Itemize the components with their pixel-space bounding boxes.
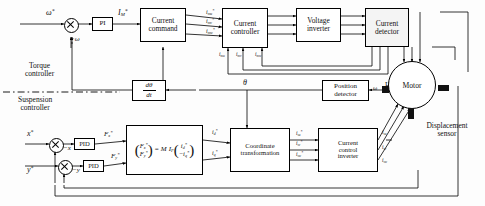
omega-feedback-label: −ω — [70, 36, 80, 43]
displacement-sensor-probe-icon — [408, 108, 414, 119]
theta-signal-label: θ — [243, 79, 247, 87]
y-feedback-label: −y — [72, 167, 80, 174]
current-control-inverter-block[interactable]: Current control inverter — [318, 128, 378, 172]
current-command-block[interactable]: Current command — [140, 8, 186, 42]
speed-summing-junction[interactable] — [64, 18, 79, 33]
coordinate-transformation-block[interactable]: Coordinate transformation — [230, 128, 290, 172]
derivative-block[interactable]: dθ dt — [132, 80, 166, 101]
iq-reference-label: iq* — [212, 150, 218, 158]
displacement-sensor-line2: sensor — [414, 130, 480, 138]
torque-current-fb-w-label: imw — [255, 52, 261, 58]
torque-controller-region-label: Torque controller — [25, 62, 54, 77]
torque-current-ref-w-label: imw* — [206, 28, 215, 36]
torque-controller-label-line2: controller — [25, 70, 54, 78]
current-command-line2: command — [148, 25, 177, 33]
pid-y-block[interactable]: PID — [83, 160, 104, 172]
id-reference-label: id* — [212, 129, 218, 137]
suspension-current-ref-u-label: isu* — [296, 131, 302, 137]
displacement-sensor-label: Displacement sensor — [414, 122, 480, 137]
pi-controller-block[interactable]: PI — [92, 17, 113, 31]
force-y-ref-label: Fy* — [111, 153, 120, 160]
torque-current-command-label: IM* — [118, 9, 128, 18]
x-feedback-label: −x — [63, 145, 71, 152]
suspension-current-fb-w-label: isw — [382, 158, 387, 164]
x-reference-label: x* — [27, 130, 33, 138]
current-controller-line2: controller — [231, 28, 260, 36]
right-paren-close: ) — [189, 144, 194, 156]
matrix-gain-m: M — [161, 146, 167, 153]
force-x-ref-label: Fx* — [104, 131, 113, 138]
coordinate-transformation-line2: transformation — [241, 150, 280, 157]
torque-current-ref-u-label: imu* — [206, 9, 214, 17]
suspension-current-ref-w-label: isw* — [296, 152, 303, 158]
force-current-matrix-block[interactable]: ( Fx* Fy* ) = M IF ( id* −iq* ) — [126, 125, 203, 175]
current-controller-block[interactable]: Current controller — [222, 8, 268, 48]
derivative-denominator: dt — [146, 92, 151, 100]
position-detector-block[interactable]: Position detector — [322, 80, 369, 101]
matrix-equation: ( Fx* Fy* ) = M IF ( id* −iq* ) — [135, 142, 195, 158]
suspension-controller-region-label: Suspension controller — [18, 96, 52, 111]
torque-current-fb-v-label: imv — [236, 52, 242, 58]
block-diagram-canvas: ω* −ω PI IM* Current command imu* imv* i… — [0, 0, 485, 206]
matrix-rhs-top: id* — [181, 142, 187, 150]
pid-x-block[interactable]: PID — [74, 138, 95, 150]
derivative-numerator: dθ — [146, 82, 153, 90]
suspension-current-fb-v-label: isv — [382, 145, 386, 151]
matrix-lhs-bottom: Fy* — [140, 150, 148, 158]
left-paren-close: ) — [148, 144, 153, 156]
x-summing-junction[interactable] — [49, 138, 64, 153]
matrix-rhs-bottom: −iq* — [179, 150, 190, 158]
voltage-inverter-block[interactable]: Voltage inverter — [296, 8, 341, 42]
current-detector-block[interactable]: Current detector — [365, 8, 409, 47]
suspension-current-fb-u-label: isu — [382, 130, 387, 136]
matrix-equals: = — [155, 146, 159, 153]
torque-current-fb-u-label: imu — [219, 52, 225, 58]
voltage-inverter-line2: inverter — [307, 25, 330, 33]
motor-block[interactable]: Motor — [388, 61, 436, 109]
omega-hall-label: ω — [373, 85, 377, 91]
torque-current-ref-v-label: imv* — [206, 18, 214, 26]
position-detector-line2: detector — [334, 91, 357, 98]
y-summing-junction[interactable] — [58, 160, 73, 175]
current-control-inverter-line3: inverter — [338, 153, 359, 160]
displacement-sensor-icon — [438, 85, 449, 91]
y-reference-label: y* — [27, 166, 33, 174]
current-detector-line2: detector — [375, 28, 399, 36]
omega-reference-label: ω* — [46, 9, 54, 17]
suspension-current-ref-v-label: isv* — [296, 141, 302, 147]
matrix-lhs-top: Fx* — [140, 142, 148, 150]
suspension-controller-label-line2: controller — [18, 104, 52, 112]
